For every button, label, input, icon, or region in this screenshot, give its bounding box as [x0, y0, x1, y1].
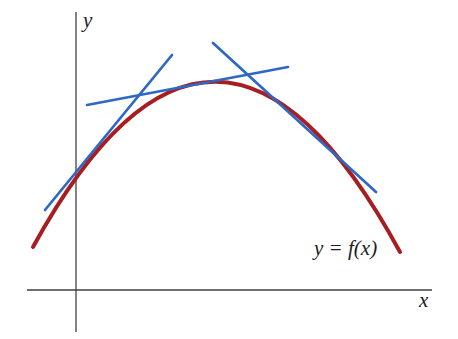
figure: y x y = f(x)	[0, 0, 458, 339]
x-axis-label: x	[418, 288, 429, 312]
tangent-line-tangent-right-of-apex	[213, 43, 376, 192]
tangent-lines-group	[45, 43, 376, 210]
figure-canvas: y x y = f(x)	[0, 0, 458, 339]
curve-label: y = f(x)	[312, 236, 377, 260]
y-axis-label: y	[81, 8, 93, 32]
tangent-line-tangent-lower-left	[45, 55, 172, 210]
tangent-line-tangent-left-of-apex	[87, 67, 288, 105]
function-curve	[33, 82, 400, 252]
